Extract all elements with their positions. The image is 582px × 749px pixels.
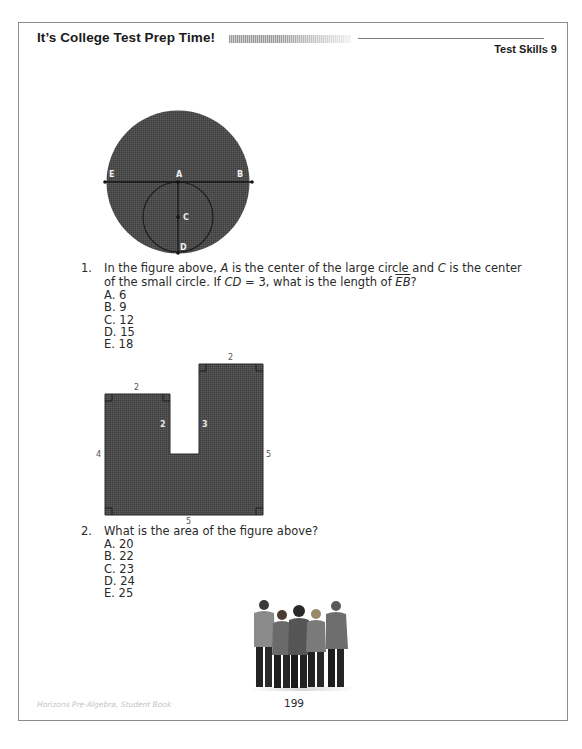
label-d: D: [180, 243, 187, 252]
page-number: 199: [284, 697, 304, 709]
u-shape: [105, 364, 263, 515]
dim-right-inner: 3: [202, 420, 208, 429]
students-photo: [244, 597, 359, 695]
choice-e: E. 18: [104, 338, 135, 350]
header-decorative-bar: [229, 35, 351, 43]
header-rule: [358, 38, 544, 39]
label-c: C: [183, 213, 189, 222]
q1-var-cd: CD: [225, 275, 242, 289]
q1-segment-eb: EB: [395, 275, 410, 289]
dim-left-side: 4: [96, 450, 101, 459]
q1-text-part: ?: [411, 275, 417, 289]
label-a: A: [176, 170, 183, 179]
footer-book-title: Horizons Pre-Algebra, Student Book: [37, 700, 171, 709]
dim-left-inner: 2: [160, 420, 166, 429]
header-title: It’s College Test Prep Time!: [37, 30, 215, 45]
question-1-number: 1.: [81, 261, 92, 275]
q1-var-c: C: [438, 261, 446, 275]
q1-text-part: In the figure above,: [104, 261, 220, 275]
q1-text-part: = 3, what is the length of: [241, 275, 395, 289]
dim-left-top: 2: [134, 383, 139, 392]
choice-e: E. 25: [104, 587, 135, 599]
u-shape-figure: 2 2 2 3 4 5 5: [90, 350, 280, 525]
dim-right-side: 5: [266, 450, 271, 459]
q1-text-part: is the center of the large circle and: [228, 261, 437, 275]
choice-b: B. 9: [104, 301, 135, 313]
question-2-choices: A. 20 B. 22 C. 23 D. 24 E. 25: [104, 538, 135, 599]
section-label: Test Skills 9: [494, 43, 557, 55]
question-1-choices: A. 6 B. 9 C. 12 D. 15 E. 18: [104, 289, 135, 350]
question-1-text: In the figure above, A is the center of …: [104, 261, 524, 289]
choice-b: B. 22: [104, 550, 135, 562]
question-2-text: What is the area of the figure above?: [104, 524, 524, 538]
label-b: B: [237, 170, 243, 179]
circle-figure: E A B C D: [95, 104, 265, 260]
label-e: E: [109, 170, 114, 179]
question-2-number: 2.: [81, 524, 92, 538]
dim-right-top: 2: [228, 353, 233, 362]
